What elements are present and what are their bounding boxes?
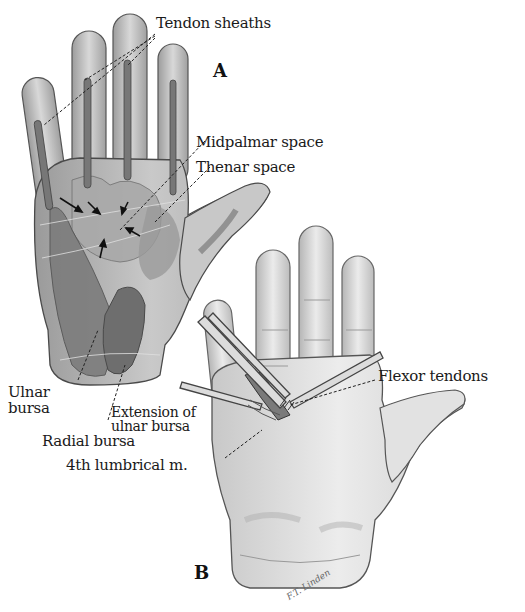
label-midpalmar-space: Midpalmar space — [196, 135, 323, 150]
label-thenar-space: Thenar space — [196, 160, 295, 175]
label-flexor-tendons: Flexor tendons — [378, 369, 488, 384]
label-4th-lumbrical: 4th lumbrical m. — [66, 458, 187, 473]
panel-letter-a: A — [213, 60, 227, 81]
label-tendon-sheaths: Tendon sheaths — [156, 16, 271, 31]
label-extension-of-ulnar-bursa-2: ulnar bursa — [111, 419, 190, 433]
label-ulnar-bursa-1: Ulnar — [8, 385, 50, 400]
panel-letter-b: B — [194, 562, 209, 583]
anatomical-figure: Tendon sheaths A Midpalmar space Thenar … — [0, 0, 525, 612]
label-ulnar-bursa-2: bursa — [8, 401, 50, 416]
label-radial-bursa: Radial bursa — [42, 434, 135, 449]
hand-b — [180, 226, 465, 588]
label-extension-of-ulnar-bursa-1: Extension of — [111, 405, 196, 419]
